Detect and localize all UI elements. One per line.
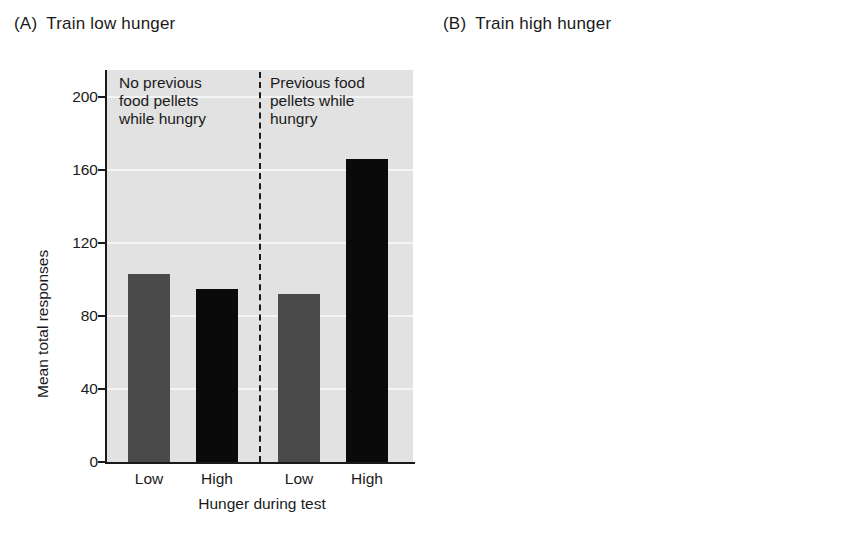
y-tick-mark (98, 461, 107, 463)
panel-a: (A) Train low hunger Mean total response… (0, 0, 429, 536)
y-tick-label: 40 (38, 380, 98, 398)
panel-b: (B) Train high hunger Mean total respons… (429, 0, 859, 536)
x-category-label: High (201, 470, 233, 488)
x-category-label: Low (135, 470, 163, 488)
x-category-label: Low (285, 470, 313, 488)
panel-a-x-axis (105, 462, 415, 464)
panel-a-group-caption-1: No previous food pellets while hungry (119, 74, 206, 128)
y-tick-mark (98, 315, 107, 317)
bar (346, 159, 388, 462)
panel-a-group-caption-2: Previous food pellets while hungry (270, 74, 365, 128)
panel-b-plot: Mean total responses 04080120160 No prev… (429, 0, 859, 536)
bar (196, 289, 238, 462)
y-tick-mark (98, 169, 107, 171)
panel-a-y-axis (105, 70, 107, 464)
figure: (A) Train low hunger Mean total response… (0, 0, 859, 536)
y-tick-mark (98, 388, 107, 390)
bar (128, 274, 170, 462)
panel-a-group-divider (259, 72, 261, 462)
y-tick-label: 200 (38, 88, 98, 106)
x-category-label: High (351, 470, 383, 488)
y-tick-label: 0 (38, 453, 98, 471)
y-tick-mark (98, 242, 107, 244)
panel-a-x-axis-label: Hunger during test (198, 495, 326, 513)
y-tick-label: 80 (38, 307, 98, 325)
y-tick-label: 160 (38, 161, 98, 179)
bar (278, 294, 320, 462)
y-tick-mark (98, 96, 107, 98)
panel-a-plot: Mean total responses 04080120160200 No p… (0, 0, 429, 536)
y-tick-label: 120 (38, 234, 98, 252)
